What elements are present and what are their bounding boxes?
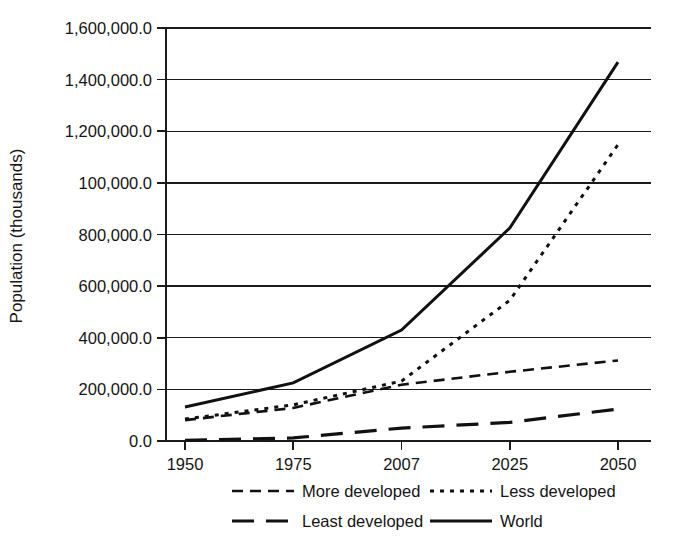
series-line-less-developed [185, 145, 618, 419]
legend-label: Least developed [302, 512, 423, 530]
series-line-more-developed [185, 360, 618, 420]
chart-canvas: Population (thousands) 0.0200,000.0400,0… [0, 0, 676, 549]
y-tick-label: 1,200,000.0 [65, 122, 152, 140]
y-tick-label: 100,000.0 [79, 174, 152, 192]
x-tick-label: 2007 [383, 455, 420, 473]
legend-label: Less developed [500, 482, 616, 500]
series-line-least-developed [185, 409, 618, 440]
legend-label: World [500, 512, 543, 530]
y-axis-title-group: Population (thousands) [7, 149, 26, 324]
x-tick-label: 1950 [167, 455, 204, 473]
population-line-chart-figure: Population (thousands) 0.0200,000.0400,0… [0, 0, 676, 549]
y-tick-label: 200,000.0 [79, 380, 152, 398]
x-tick-label: 1975 [275, 455, 312, 473]
gridlines [166, 28, 651, 441]
y-tick-label: 400,000.0 [79, 329, 152, 347]
y-tick-label: 1,400,000.0 [65, 71, 152, 89]
legend-label: More developed [302, 482, 420, 500]
y-axis-ticks: 0.0200,000.0400,000.0600,000.0800,000.01… [65, 19, 166, 450]
y-axis-title: Population (thousands) [7, 149, 26, 324]
y-tick-label: 1,600,000.0 [65, 19, 152, 37]
data-series-group [185, 62, 618, 440]
chart-legend: More developedLess developedLeast develo… [232, 482, 616, 530]
y-tick-label: 800,000.0 [79, 226, 152, 244]
x-tick-label: 2025 [491, 455, 528, 473]
y-tick-label: 0.0 [129, 432, 152, 450]
x-tick-label: 2050 [600, 455, 637, 473]
x-axis-ticks: 19501975200720252050 [167, 441, 637, 473]
y-tick-label: 600,000.0 [79, 277, 152, 295]
